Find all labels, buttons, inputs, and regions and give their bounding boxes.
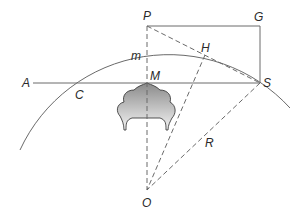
label-O: O: [142, 196, 151, 210]
label-A: A: [21, 76, 30, 90]
label-G: G: [254, 10, 263, 24]
geometry-diagram: P G H m A M S C R O: [0, 0, 290, 214]
label-C: C: [75, 88, 84, 102]
label-M: M: [150, 69, 160, 83]
label-S: S: [263, 76, 271, 90]
label-H: H: [201, 41, 210, 55]
obstruction-cloud: [117, 83, 175, 130]
label-R: R: [205, 136, 214, 150]
label-P: P: [143, 9, 151, 23]
label-m: m: [131, 49, 141, 63]
